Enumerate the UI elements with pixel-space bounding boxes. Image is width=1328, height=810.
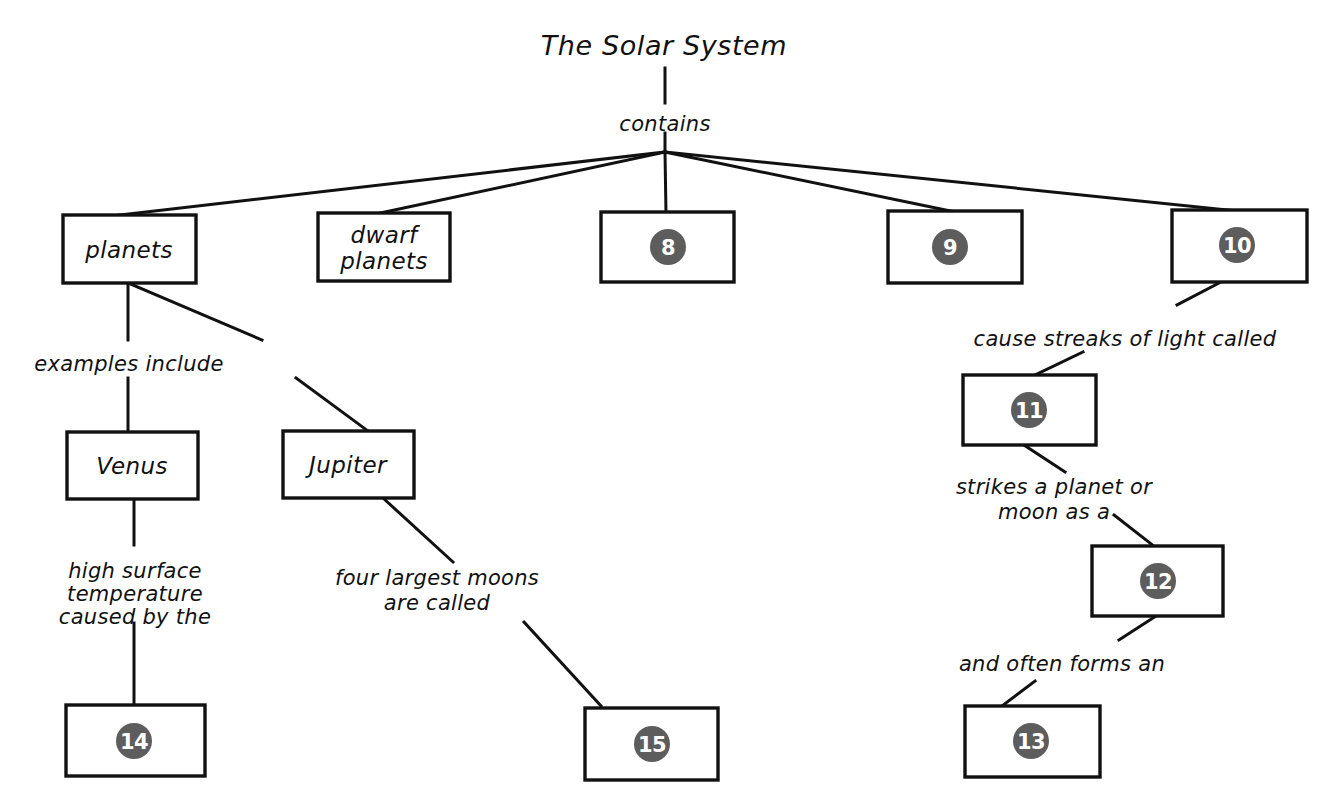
link-label-contains: contains xyxy=(619,112,710,136)
link-label-four-largest-line-1: four largest moons xyxy=(335,566,539,590)
edge-planets-to-jupiter-upper xyxy=(128,283,262,340)
edge-hub-to-box-10 xyxy=(665,152,1238,211)
node-dwarf-planets-label-line-2: planets xyxy=(339,248,428,274)
link-label-high-surface: high surface temperature caused by the xyxy=(59,559,211,629)
node-blank-10[interactable]: 10 xyxy=(1172,210,1307,282)
edge-box-12-to-label xyxy=(1119,616,1156,640)
link-label-cause-streaks: cause streaks of light called xyxy=(974,327,1277,351)
edge-box-10-to-label xyxy=(1177,282,1221,305)
badge-number-12: 12 xyxy=(1144,570,1172,594)
badge-number-13: 13 xyxy=(1017,730,1045,754)
solar-system-concept-map: The Solar System contains examples inclu… xyxy=(0,0,1328,810)
link-label-strikes-planet-line-2: moon as a xyxy=(998,500,1110,524)
link-label-high-surface-line-1: high surface xyxy=(68,559,202,583)
node-planets-label: planets xyxy=(84,237,173,263)
edge-jupiter-to-label xyxy=(383,498,453,562)
node-blank-13[interactable]: 13 xyxy=(965,706,1100,777)
link-label-and-often-forms: and often forms an xyxy=(959,652,1165,676)
edge-hub-to-planets xyxy=(102,152,665,217)
node-dwarf-planets[interactable]: dwarf planets xyxy=(318,213,450,281)
node-blank-11[interactable]: 11 xyxy=(963,375,1096,445)
edge-label-to-box-12 xyxy=(1114,515,1155,547)
link-label-strikes-planet: strikes a planet or moon as a xyxy=(956,475,1153,524)
badge-number-11: 11 xyxy=(1015,399,1043,423)
node-venus[interactable]: Venus xyxy=(67,432,198,499)
link-label-four-largest: four largest moons are called xyxy=(335,566,539,615)
badge-number-14: 14 xyxy=(120,730,148,754)
node-jupiter-label: Jupiter xyxy=(305,452,388,478)
page-title: The Solar System xyxy=(541,30,787,61)
diagram-title: The Solar System xyxy=(541,30,787,61)
link-label-strikes-planet-line-1: strikes a planet or xyxy=(956,475,1153,499)
badge-number-10: 10 xyxy=(1223,234,1251,258)
badge-number-9: 9 xyxy=(943,236,957,260)
edge-hub-to-dwarf-planets xyxy=(376,152,665,214)
edge-label-to-box-13 xyxy=(1002,681,1035,706)
link-label-four-largest-line-2: are called xyxy=(384,591,491,615)
edge-label-to-box-11 xyxy=(1033,352,1083,376)
link-label-high-surface-line-2: temperature xyxy=(67,582,203,606)
concept-map-canvas: The Solar System contains examples inclu… xyxy=(0,0,1328,810)
badge-number-8: 8 xyxy=(661,236,675,260)
node-blank-15[interactable]: 15 xyxy=(585,708,718,780)
edge-hub-to-box-8 xyxy=(665,152,666,213)
node-planets[interactable]: planets xyxy=(63,215,196,283)
edge-box-11-to-label xyxy=(1024,445,1065,472)
link-label-high-surface-line-3: caused by the xyxy=(59,605,211,629)
edge-label-to-box-15 xyxy=(524,622,601,706)
node-blank-12[interactable]: 12 xyxy=(1092,546,1223,616)
node-jupiter[interactable]: Jupiter xyxy=(283,431,414,498)
node-dwarf-planets-label-line-1: dwarf xyxy=(350,222,420,248)
node-blank-9[interactable]: 9 xyxy=(888,211,1022,283)
badge-number-15: 15 xyxy=(638,733,666,757)
node-blank-8[interactable]: 8 xyxy=(601,212,734,282)
edge-hub-to-box-9 xyxy=(665,152,955,212)
edge-to-jupiter-lower xyxy=(296,378,368,431)
link-label-examples-include: examples include xyxy=(34,352,223,376)
node-venus-label: Venus xyxy=(96,453,168,479)
node-blank-14[interactable]: 14 xyxy=(66,705,205,776)
